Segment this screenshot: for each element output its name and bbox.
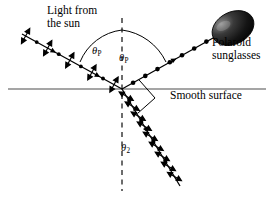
refracted-polarization-arrows: [118, 90, 183, 183]
label-polaroid-sunglasses: Polaroid sunglasses: [212, 36, 261, 62]
label-smooth-surface: Smooth surface: [170, 89, 242, 102]
incident-ray: [19, 27, 122, 93]
refracted-ray-line: [122, 89, 180, 186]
reflected-ray: [122, 33, 222, 89]
angle-arc-reflected: [122, 30, 166, 62]
incident-polarization-arrows: [19, 27, 120, 93]
theta-subscript-reflected: P: [124, 57, 128, 65]
right-angle-marker: [138, 80, 156, 114]
refracted-ray: [118, 89, 183, 186]
physics-diagram-brewster-angle: Light from the sun Polaroid sunglasses S…: [0, 0, 274, 198]
theta-subscript-refracted: 2: [126, 147, 130, 155]
label-angle-theta-p-reflected: θP: [119, 52, 128, 63]
theta-subscript-incident: P: [97, 50, 101, 58]
label-angle-theta-p-incident: θP: [92, 45, 101, 56]
label-light-from-sun: Light from the sun: [47, 4, 97, 30]
label-angle-theta-2-refracted: θ2: [121, 142, 130, 153]
